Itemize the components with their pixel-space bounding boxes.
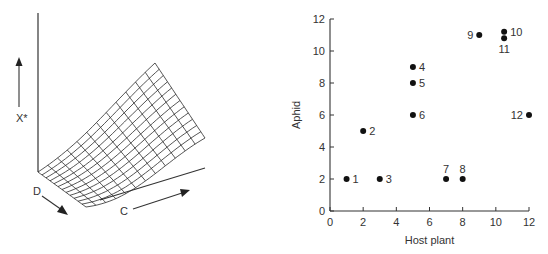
y-tick-label: 10 xyxy=(313,45,325,57)
data-point: 7 xyxy=(443,163,449,182)
surface-diagram: X* D C xyxy=(16,13,206,217)
figure-canvas: X* D C 024681012 024681012 1234567891011… xyxy=(0,0,548,254)
x-axis-label: Host plant xyxy=(405,234,455,246)
y-tick-label: 12 xyxy=(313,13,325,25)
point-marker-icon xyxy=(410,64,416,70)
data-point: 4 xyxy=(410,61,425,73)
data-point: 6 xyxy=(410,109,425,121)
x-star-label: X* xyxy=(16,112,28,124)
x-tick-label: 6 xyxy=(426,216,432,228)
point-marker-icon xyxy=(526,112,532,118)
point-marker-icon xyxy=(410,112,416,118)
data-point: 8 xyxy=(460,163,466,182)
data-point: 3 xyxy=(377,173,392,185)
x-axis-ticks: 024681012 xyxy=(327,207,535,228)
point-label: 11 xyxy=(498,43,509,55)
surface-mesh xyxy=(38,63,205,207)
point-marker-icon xyxy=(476,32,482,38)
data-point: 5 xyxy=(410,77,425,89)
y-tick-label: 0 xyxy=(319,205,325,217)
point-label: 5 xyxy=(419,77,425,89)
point-label: 3 xyxy=(386,173,392,185)
point-marker-icon xyxy=(360,128,366,134)
point-label: 6 xyxy=(419,109,425,121)
data-point: 12 xyxy=(511,109,532,121)
point-marker-icon xyxy=(410,80,416,86)
y-tick-label: 4 xyxy=(319,141,325,153)
x-tick-label: 8 xyxy=(460,216,466,228)
data-point: 9 xyxy=(467,29,482,41)
x-tick-label: 4 xyxy=(393,216,399,228)
point-marker-icon xyxy=(443,176,449,182)
point-label: 1 xyxy=(353,173,359,185)
y-tick-label: 8 xyxy=(319,77,325,89)
point-label: 8 xyxy=(460,163,466,175)
point-marker-icon xyxy=(460,176,466,182)
y-axis-label: Aphid xyxy=(290,101,302,129)
c-label: C xyxy=(120,205,128,217)
x-tick-label: 0 xyxy=(327,216,333,228)
point-label: 10 xyxy=(510,26,522,38)
data-point: 11 xyxy=(498,35,509,55)
scatter-chart: 024681012 024681012 123456789101112 Host… xyxy=(290,13,535,246)
point-marker-icon xyxy=(501,35,507,41)
point-label: 4 xyxy=(419,61,425,73)
point-marker-icon xyxy=(344,176,350,182)
point-marker-icon xyxy=(501,29,507,35)
y-tick-label: 6 xyxy=(319,109,325,121)
floor-axis-line xyxy=(100,168,205,200)
point-label: 7 xyxy=(443,163,449,175)
d-label: D xyxy=(33,185,41,197)
point-label: 2 xyxy=(369,125,375,137)
y-axis-ticks: 024681012 xyxy=(313,13,334,217)
x-star-arrow-icon xyxy=(16,57,23,107)
point-marker-icon xyxy=(377,176,383,182)
x-tick-label: 2 xyxy=(360,216,366,228)
y-tick-label: 2 xyxy=(319,173,325,185)
figure: X* D C 024681012 024681012 1234567891011… xyxy=(0,0,548,254)
point-label: 9 xyxy=(467,29,473,41)
x-tick-label: 10 xyxy=(490,216,502,228)
point-label: 12 xyxy=(511,109,523,121)
d-arrow-icon xyxy=(42,196,68,215)
data-point: 1 xyxy=(344,173,359,185)
x-tick-label: 12 xyxy=(523,216,535,228)
data-points: 123456789101112 xyxy=(344,26,532,185)
c-arrow-icon xyxy=(133,189,190,209)
data-point: 2 xyxy=(360,125,375,137)
